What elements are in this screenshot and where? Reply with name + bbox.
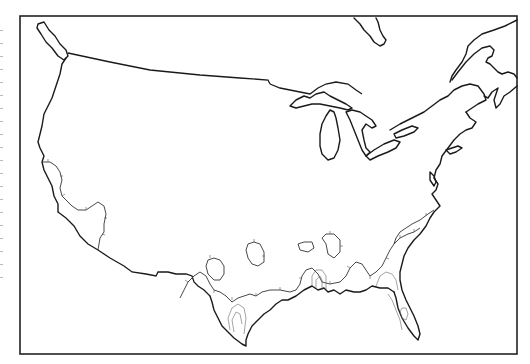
gulf-coastline [210, 286, 394, 346]
vancouver-island [37, 22, 68, 60]
contour-hatch-marks [48, 159, 426, 300]
contour-loop-1 [206, 258, 224, 280]
contour-loop-4 [322, 234, 340, 258]
lake-ontario [394, 126, 418, 138]
contour-texas-1 [228, 304, 246, 334]
contour-florida-loop [400, 308, 408, 320]
contour-loop-3 [298, 242, 314, 252]
lake-michigan [320, 110, 340, 160]
lake-erie [366, 140, 400, 160]
maine-shore [390, 84, 486, 130]
contour-northeast [394, 210, 434, 244]
contour-texas-2 [232, 312, 242, 332]
lake-huron [346, 110, 376, 156]
contour-california [42, 162, 106, 250]
pacific-coastline [38, 58, 66, 212]
map-svg [0, 0, 530, 364]
border-lake-superior [270, 82, 362, 94]
contour-southern-band [180, 228, 420, 302]
atlantic-coastline [394, 112, 476, 340]
contour-louisiana-2 [316, 276, 322, 290]
map-figure [0, 0, 530, 364]
margin-bleed-marks [0, 30, 6, 330]
hudson-bay-shore [354, 18, 386, 46]
nova-scotia [484, 86, 517, 108]
lake-superior [290, 92, 352, 110]
us-canada-border [68, 53, 270, 84]
contour-loop-2 [246, 242, 264, 266]
map-frame [20, 16, 517, 354]
